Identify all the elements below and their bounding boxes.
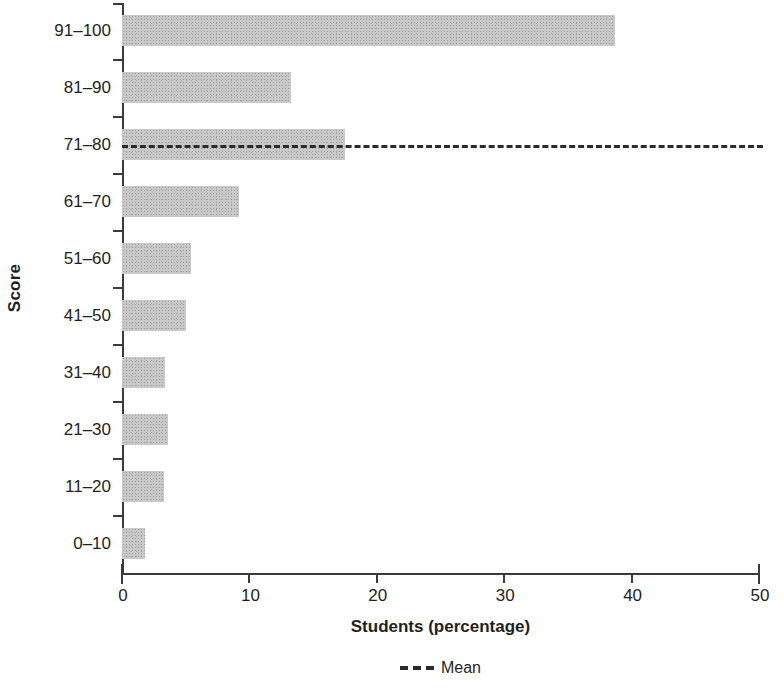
x-axis-tick-label: 0: [93, 586, 153, 606]
y-axis-tick-label: 31–40: [64, 357, 111, 388]
bar: [122, 528, 145, 559]
y-axis-tick-label: 51–60: [64, 243, 111, 274]
x-axis-tick-label: 50: [730, 586, 784, 606]
bar: [122, 15, 615, 46]
bar-row: 21–30: [122, 402, 759, 459]
x-axis-line: [122, 573, 759, 575]
bar-chart-figure: Score 91–10081–9071–8061–7051–6041–5031–…: [0, 0, 784, 688]
y-axis-tick: [113, 458, 122, 460]
y-axis-tick-label: 41–50: [64, 300, 111, 331]
bar-row: 91–100: [122, 3, 759, 60]
y-axis-tick: [113, 116, 122, 118]
y-axis-title-text: Score: [5, 263, 25, 311]
x-axis-tick-label: 20: [348, 586, 408, 606]
bar-row: 51–60: [122, 231, 759, 288]
y-axis-title: Score: [0, 0, 30, 575]
bar: [122, 243, 191, 274]
y-axis-tick: [113, 344, 122, 346]
mean-line-legend-swatch-icon: [400, 666, 434, 670]
bar: [122, 357, 165, 388]
bar-row: 41–50: [122, 288, 759, 345]
x-axis-tick: [631, 573, 633, 583]
x-axis-tick: [248, 573, 250, 583]
y-axis-tick: [113, 173, 122, 175]
y-axis-tick: [113, 287, 122, 289]
plot-area: 91–10081–9071–8061–7051–6041–5031–4021–3…: [122, 3, 759, 575]
y-axis-tick: [113, 230, 122, 232]
chart-legend: Mean: [122, 659, 759, 677]
y-axis-tick-label: 91–100: [54, 15, 111, 46]
y-axis-tick: [113, 515, 122, 517]
y-axis-tick: [113, 59, 122, 61]
y-axis-tick-label: 61–70: [64, 186, 111, 217]
x-axis-tick: [758, 564, 760, 584]
bar-row: 0–10: [122, 516, 759, 573]
bar: [122, 186, 239, 217]
x-axis-tick-label: 30: [475, 586, 535, 606]
bar: [122, 72, 291, 103]
y-axis-tick: [113, 401, 122, 403]
bar-row: 31–40: [122, 345, 759, 402]
y-axis-tick-label: 71–80: [64, 129, 111, 160]
y-axis-tick-label: 11–20: [65, 471, 111, 502]
x-axis-tick: [121, 564, 123, 584]
bar: [122, 300, 186, 331]
x-axis-tick-label: 10: [220, 586, 280, 606]
bar: [122, 414, 168, 445]
mean-reference-line: [122, 145, 763, 148]
legend-label-mean: Mean: [441, 659, 481, 677]
y-axis-tick: [113, 3, 122, 5]
y-axis-tick-label: 81–90: [64, 72, 111, 103]
y-axis-tick-label: 21–30: [64, 414, 111, 445]
x-axis-tick: [376, 573, 378, 583]
x-axis-title: Students (percentage): [122, 617, 759, 637]
bar-row: 11–20: [122, 459, 759, 516]
bar-row: 81–90: [122, 60, 759, 117]
x-axis-tick-label: 40: [603, 586, 663, 606]
bar: [122, 471, 164, 502]
y-axis-tick-label: 0–10: [73, 528, 111, 559]
x-axis-tick: [503, 573, 505, 583]
bar-row: 61–70: [122, 174, 759, 231]
